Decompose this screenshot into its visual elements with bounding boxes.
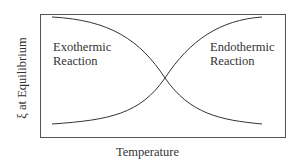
exothermic-label: Exothermic Reaction (53, 40, 111, 68)
chart-canvas (0, 0, 299, 161)
endothermic-label-line2: Reaction (210, 54, 275, 68)
endothermic-curve (52, 17, 262, 124)
y-axis-label: ξ at Equilibrium (15, 37, 30, 118)
endothermic-label: Endothermic Reaction (210, 40, 275, 68)
exothermic-label-line2: Reaction (53, 54, 111, 68)
exothermic-curve (52, 17, 262, 124)
x-axis-label: Temperature (116, 145, 179, 160)
plot-frame (41, 15, 286, 138)
endothermic-label-line1: Endothermic (210, 40, 275, 54)
exothermic-label-line1: Exothermic (53, 40, 111, 54)
